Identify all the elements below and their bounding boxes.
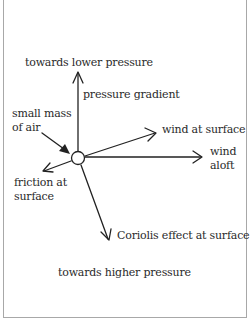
label-towards-lower-pressure: towards lower pressure	[25, 56, 153, 70]
label-coriolis-effect: Coriolis effect at surface	[117, 229, 249, 243]
coriolis-arrow	[81, 165, 111, 240]
wind-aloft-arrow	[85, 151, 202, 163]
label-pressure-gradient: pressure gradient	[83, 88, 179, 102]
label-wind-aloft-line1: wind	[210, 145, 236, 159]
label-wind-at-surface: wind at surface	[162, 123, 245, 137]
label-friction-line1: friction at	[14, 176, 67, 190]
mass-pointer-arrowhead-icon	[59, 144, 70, 154]
friction-arrow	[43, 161, 71, 172]
label-small-mass-line2: of air	[12, 121, 71, 135]
label-small-mass-line1: small mass	[12, 107, 71, 121]
pressure-gradient-arrow	[73, 72, 83, 151]
label-wind-aloft: wind aloft	[210, 145, 236, 173]
wind-at-surface-arrow	[85, 128, 156, 156]
small-mass-of-air-circle	[72, 152, 85, 165]
label-towards-higher-pressure: towards higher pressure	[58, 266, 191, 280]
mass-pointer-arrow	[42, 133, 64, 149]
label-friction-line2: surface	[14, 190, 67, 204]
label-friction-at-surface: friction at surface	[14, 176, 67, 204]
label-small-mass-of-air: small mass of air	[12, 107, 71, 135]
label-wind-aloft-line2: aloft	[210, 159, 236, 173]
